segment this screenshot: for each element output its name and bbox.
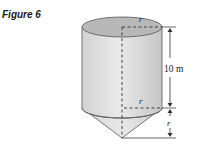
bottom-radius-label: r <box>139 96 143 106</box>
top-radius-label: r <box>139 14 143 24</box>
cylinder-cone-diagram: r r 10 m r <box>0 0 197 154</box>
cone-height-label: r <box>167 118 171 128</box>
height-label: 10 m <box>164 64 184 74</box>
